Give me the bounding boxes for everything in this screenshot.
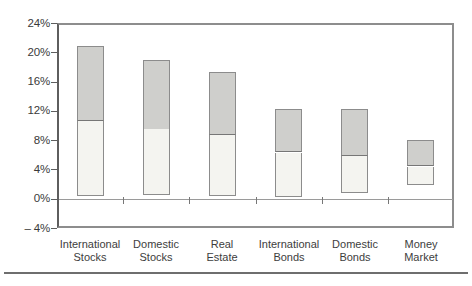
y-axis-tick [51, 23, 57, 24]
lower-range-segment [77, 121, 104, 196]
category-label: DomesticBonds [322, 238, 388, 263]
y-axis-tick-label: 4% [0, 163, 50, 176]
lower-range-segment [341, 156, 368, 193]
category-label-line: Domestic [123, 238, 189, 251]
upper-range-segment [77, 46, 104, 121]
upper-range-segment [209, 72, 236, 135]
category-label-line: International [256, 238, 322, 251]
y-axis-tick-label: 16% [0, 75, 50, 88]
category-label: MoneyMarket [388, 238, 454, 263]
category-label: InternationalStocks [57, 238, 123, 263]
y-axis-tick [51, 111, 57, 112]
category-label-line: Domestic [322, 238, 388, 251]
category-label-line: Real [189, 238, 255, 251]
x-axis-tick [388, 197, 389, 204]
upper-range-segment [143, 60, 170, 130]
upper-range-segment [341, 109, 368, 156]
lower-range-segment [275, 153, 302, 197]
y-axis-tick [51, 199, 57, 200]
category-label-line: Market [388, 251, 454, 264]
lower-range-segment [407, 167, 434, 185]
category-label: DomesticStocks [123, 238, 189, 263]
y-axis-tick [51, 228, 57, 229]
x-axis-tick [256, 197, 257, 204]
y-axis-tick [51, 169, 57, 170]
category-label-line: Estate [189, 251, 255, 264]
y-axis-tick-label: – 4% [0, 222, 50, 235]
x-axis-tick [123, 197, 124, 204]
y-axis-tick-label: 12% [0, 104, 50, 117]
lower-range-segment [143, 129, 170, 195]
y-axis-tick-label: 24% [0, 17, 50, 30]
category-label-line: Stocks [57, 251, 123, 264]
upper-range-segment [407, 140, 434, 166]
category-label: RealEstate [189, 238, 255, 263]
upper-range-segment [275, 109, 302, 152]
y-axis-tick-label: 8% [0, 134, 50, 147]
category-label-line: Stocks [123, 251, 189, 264]
asset-class-return-range-chart: 24%20%16%12%8%4%0%– 4%InternationalStock… [0, 0, 472, 286]
category-label-line: Bonds [322, 251, 388, 264]
figure-bottom-rule [4, 272, 468, 274]
category-label: InternationalBonds [256, 238, 322, 263]
y-axis-tick [51, 140, 57, 141]
y-axis-tick [51, 82, 57, 83]
category-label-line: International [57, 238, 123, 251]
y-axis-tick-label: 0% [0, 192, 50, 205]
category-label-line: Bonds [256, 251, 322, 264]
y-axis-tick-label: 20% [0, 46, 50, 59]
y-axis-tick [51, 52, 57, 53]
x-axis-tick [189, 197, 190, 204]
category-label-line: Money [388, 238, 454, 251]
lower-range-segment [209, 135, 236, 196]
x-axis-tick [322, 197, 323, 204]
